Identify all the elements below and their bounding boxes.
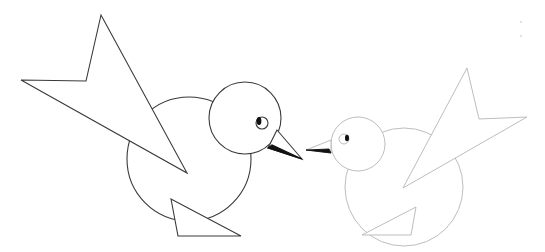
drawing-canvas: Two geometric line-art birds facing each… [0,0,545,252]
right-bird [306,68,527,246]
speck-dot [520,21,522,23]
right-bird-wing [403,68,527,188]
right-bird-head [331,117,385,171]
left-bird [21,15,302,236]
right-bird-beak-shadow [306,149,331,153]
birds-illustration [0,0,545,252]
left-bird-wing [21,15,187,173]
right-bird-pupil [345,135,349,142]
speck-dot [520,35,522,37]
left-bird-pupil [257,117,262,125]
